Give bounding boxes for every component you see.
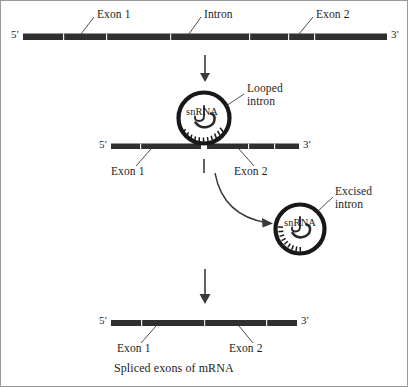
looped-intron-label: Looped intron [247, 82, 283, 108]
stage1-divider-a [63, 34, 64, 41]
stage4-five-prime-label: 5' [99, 314, 107, 327]
stage1-divider-b [106, 34, 107, 41]
arrow-intron-release [215, 173, 273, 228]
release-arrowhead [262, 218, 273, 228]
stage2-snrna-label: snRNA [186, 106, 218, 119]
stage4-strand [111, 320, 297, 343]
stage1-exon1-leader [81, 17, 94, 34]
release-curve [215, 173, 268, 223]
arrow-stage1-to-stage2 [200, 55, 210, 82]
stage1-backbone [23, 34, 387, 41]
stage2-exon2-label: Exon 2 [234, 165, 268, 178]
stage2-five-prime-label: 5' [99, 138, 107, 151]
stage1-exon1-label: Exon 1 [97, 8, 131, 21]
stage4-exon1-label: Exon 1 [117, 342, 151, 355]
stage4-divider-b [266, 320, 267, 326]
stage1-exon2-label: Exon 2 [316, 8, 350, 21]
looped-intron-leader [226, 94, 244, 106]
stage1-three-prime-label: 3' [391, 28, 399, 41]
stage2-divider-b [248, 144, 249, 150]
stage4-divider-a [141, 320, 142, 326]
stage2-three-prime-label: 3' [303, 138, 311, 151]
stage2-divider-a [140, 144, 141, 150]
stage1-five-prime-label: 5' [11, 28, 19, 41]
stage1-divider-f [314, 34, 315, 41]
stage4-exon2-label: Exon 2 [229, 342, 263, 355]
stage2-exon1-leader [136, 149, 151, 166]
stage2-exon1-label: Exon 1 [111, 165, 145, 178]
excised-intron-leader [318, 197, 333, 211]
excised-intron-label: Excised intron [335, 185, 372, 211]
stage1-divider-c [170, 34, 171, 41]
stage2-exon2-leader [239, 149, 254, 166]
stage3-snrna-label: snRNA [284, 217, 316, 230]
stage1-intron-label: Intron [204, 8, 233, 21]
stage1-exon2-leader [299, 17, 313, 34]
stage1-divider-d [249, 34, 250, 41]
stage2-divider-c [274, 144, 275, 150]
stage4-exon2-leader [239, 326, 253, 343]
stage1-intron-leader [189, 17, 201, 34]
stage1-divider-e [288, 34, 289, 41]
figure-caption: Spliced exons of mRNA [114, 362, 234, 375]
arrow-stage2-to-stage4 [200, 269, 211, 304]
stage4-splice-junction [204, 320, 205, 326]
splicing-diagram: 5' 3' Exon 1 Intron Exon 2 snRNA Looped … [0, 0, 408, 387]
stage4-three-prime-label: 3' [301, 314, 309, 327]
stage4-exon1-leader [141, 326, 156, 343]
